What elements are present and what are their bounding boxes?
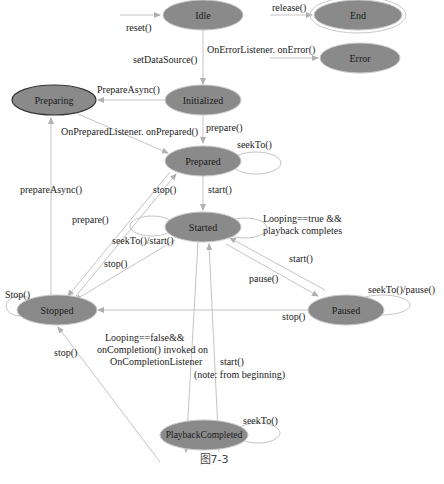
node-idle-label: Idle	[195, 10, 211, 21]
label-pause: pause()	[249, 273, 278, 285]
label-seekto-start: seekTo()/start()	[112, 235, 174, 247]
label-stop-self: Stop()	[5, 289, 30, 301]
label-looping-true-1: Looping==true &&	[263, 213, 342, 224]
label-stop-paused: stop()	[282, 311, 305, 323]
node-error-label: Error	[349, 53, 371, 64]
label-stop-prepared: stop()	[153, 184, 176, 196]
node-paused[interactable]: Paused	[308, 295, 384, 325]
node-prepared[interactable]: Prepared	[165, 146, 241, 176]
label-start-completed-2: (note: from beginning)	[194, 369, 285, 381]
node-initialized[interactable]: Initialized	[165, 85, 241, 115]
label-seekto-pause: seekTo()/pause()	[368, 284, 435, 296]
label-start-prepared: start()	[208, 184, 232, 196]
node-end-label: End	[350, 10, 366, 21]
label-prepareasync-init: PrepareAsync()	[97, 84, 160, 96]
label-onprepared: OnPreparedListener. onPrepared()	[61, 126, 198, 138]
label-onerror: OnErrorListener. onError()	[207, 44, 315, 56]
label-prepare-init: prepare()	[206, 122, 243, 134]
node-paused-label: Paused	[332, 305, 360, 316]
node-started-label: Started	[189, 222, 217, 233]
node-playbackcompleted[interactable]: PlaybackCompleted	[160, 420, 248, 450]
label-stop-completed: stop()	[54, 347, 77, 359]
nodes: Idle End Error Preparing Initialized Pre…	[12, 0, 406, 450]
label-looping-true-2: playback completes	[263, 225, 342, 236]
label-seekto-prepared: seekTo()	[237, 139, 272, 151]
label-setdatasource: setDataSource()	[133, 54, 197, 66]
label-prepare-stopped: prepare()	[72, 214, 109, 226]
label-release: release()	[272, 2, 306, 14]
label-start-paused: start()	[289, 253, 313, 265]
node-error[interactable]: Error	[320, 43, 400, 73]
node-playbackcompleted-label: PlaybackCompleted	[166, 430, 243, 440]
figure-caption: 图7-3	[200, 453, 229, 466]
node-preparing-label: Preparing	[35, 95, 74, 106]
node-idle[interactable]: Idle	[163, 0, 243, 30]
state-diagram: Idle End Error Preparing Initialized Pre…	[0, 0, 444, 484]
label-oncompletion-3: OnCompletionListener	[110, 356, 203, 367]
label-oncompletion-1: Looping==false&&	[105, 332, 185, 343]
label-prepareasync-stopped: prepareAsync()	[20, 184, 82, 196]
label-start-completed-1: start()	[220, 356, 244, 368]
node-end[interactable]: End	[310, 0, 406, 33]
node-initialized-label: Initialized	[183, 95, 224, 106]
node-started[interactable]: Started	[165, 212, 241, 242]
node-prepared-label: Prepared	[185, 156, 221, 167]
label-oncompletion-2: onCompletion() invoked on	[97, 344, 208, 356]
label-reset: reset()	[126, 22, 152, 34]
label-seekto-completed: seekTo()	[243, 415, 278, 427]
node-stopped-label: Stopped	[41, 305, 74, 316]
label-stop-started: stop()	[104, 258, 127, 270]
node-preparing[interactable]: Preparing	[12, 85, 96, 115]
edge-pause	[226, 244, 318, 296]
